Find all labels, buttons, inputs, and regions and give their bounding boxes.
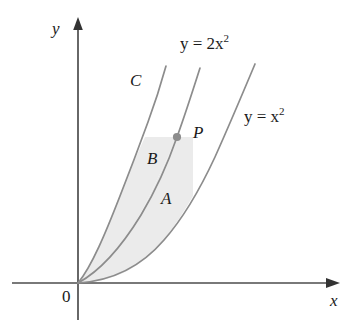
curve-label-c: C <box>130 72 141 89</box>
curve-label-2x2-exponent: 2 <box>224 32 230 44</box>
x-axis-label: x <box>330 292 338 309</box>
curve-label-2x2-text: y = 2x <box>180 34 224 53</box>
origin-label: 0 <box>62 288 71 305</box>
y-axis-label: y <box>52 20 60 37</box>
point-p-marker <box>173 133 181 141</box>
figure-canvas <box>0 0 354 331</box>
x-axis-arrowhead <box>326 278 340 288</box>
curve-label-x2: y = x2 <box>244 108 285 125</box>
region-label-b: B <box>147 150 157 167</box>
point-label-p: P <box>193 124 203 141</box>
parabola-regions-figure: y x 0 C y = 2x2 y = x2 P B A <box>0 0 354 331</box>
y-axis-arrowhead <box>73 17 83 30</box>
curve-label-2x2: y = 2x2 <box>180 35 229 52</box>
region-label-a: A <box>161 190 171 207</box>
curve-label-x2-exponent: 2 <box>279 105 285 117</box>
curve-label-x2-text: y = x <box>244 107 279 126</box>
